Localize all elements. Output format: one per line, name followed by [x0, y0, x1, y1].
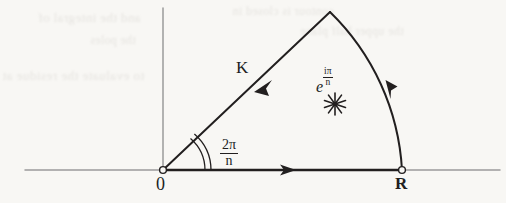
pole-starburst-icon	[325, 93, 346, 115]
arrowhead-circular-arc	[386, 80, 398, 99]
pole-base: e	[316, 78, 323, 95]
pole-exponent-denominator: n	[323, 78, 332, 88]
contour-figure: and the integral of the poles to evaluat…	[0, 0, 506, 203]
angle-numerator: 2π	[220, 138, 238, 154]
label-wedge-angle: 2πn	[220, 138, 238, 169]
contour-circular-arc	[330, 12, 402, 170]
angle-fraction: 2πn	[220, 138, 238, 169]
label-pole-exponential: eiπn	[316, 68, 333, 96]
label-K: K	[236, 58, 248, 78]
label-origin: 0	[156, 174, 165, 195]
label-radius-R: R	[395, 174, 407, 194]
pole-exponent-fraction: iπn	[323, 67, 332, 87]
angle-denominator: n	[220, 154, 238, 169]
radius-dot	[399, 167, 406, 174]
contour-ray-K	[163, 12, 330, 170]
contour-drawing	[0, 0, 506, 203]
angle-arc-marker	[191, 134, 212, 170]
origin-dot	[160, 167, 167, 174]
